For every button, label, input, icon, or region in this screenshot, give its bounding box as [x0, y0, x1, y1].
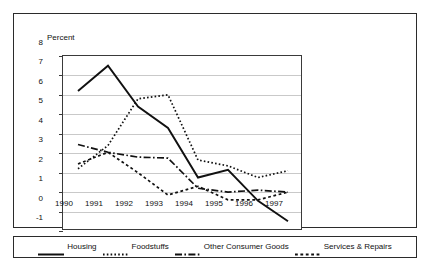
y-tick-label: 4 [15, 115, 43, 124]
y-tick-label: 3 [15, 135, 43, 144]
x-tick-label: 1993 [145, 199, 163, 208]
series-line-foodstuffs [78, 95, 288, 178]
legend-label: Services & Repairs [324, 243, 392, 251]
y-tick-label: 2 [15, 154, 43, 163]
chart-legend: HousingFoodstuffsOther Consumer GoodsSer… [13, 236, 417, 258]
legend-label: Other Consumer Goods [204, 243, 289, 251]
legend-swatch-icon [38, 244, 64, 251]
y-tick-label: 7 [15, 57, 43, 66]
series-line-services-repairs [78, 152, 288, 200]
chart-frame: Percent 876543210-1 19901991199219931994… [13, 13, 417, 228]
legend-swatch-icon [175, 244, 201, 251]
x-tick-label: 1994 [175, 199, 193, 208]
y-tick-mark [59, 231, 63, 232]
y-tick-label: 0 [15, 193, 43, 202]
y-tick-label: 1 [15, 174, 43, 183]
legend-entry[interactable]: Other Consumer Goods [175, 243, 289, 251]
y-axis-title: Percent [47, 33, 75, 42]
y-tick-label: 8 [15, 38, 43, 47]
x-tick-label: 1990 [55, 199, 73, 208]
chart-screenshot: Percent 876543210-1 19901991199219931994… [0, 0, 431, 269]
legend-entry[interactable]: Housing [38, 243, 96, 251]
x-tick-label: 1997 [265, 199, 283, 208]
legend-label: Housing [67, 243, 96, 251]
x-tick-label: 1991 [85, 199, 103, 208]
y-tick-label: 6 [15, 76, 43, 85]
legend-swatch-icon [295, 244, 321, 251]
legend-swatch-icon [103, 244, 129, 251]
legend-label: Foodstuffs [132, 243, 169, 251]
x-tick-label: 1995 [205, 199, 223, 208]
x-tick-label: 1996 [235, 199, 253, 208]
x-tick-label: 1992 [115, 199, 133, 208]
legend-entry[interactable]: Services & Repairs [295, 243, 392, 251]
y-tick-label: 5 [15, 96, 43, 105]
y-tick-label: -1 [15, 213, 43, 222]
legend-entry[interactable]: Foodstuffs [103, 243, 169, 251]
